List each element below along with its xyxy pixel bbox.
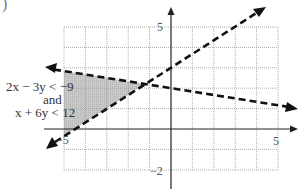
arrowhead-icon <box>285 102 298 112</box>
arrowhead-icon <box>45 63 57 73</box>
y-tick-5: 5 <box>157 21 163 33</box>
y-axis-arrow-icon <box>168 7 175 15</box>
x-tick-neg5: −5 <box>56 134 69 146</box>
inequality-2-label: x + 6y < 12 <box>15 106 75 119</box>
shaded-solution-region <box>64 71 145 136</box>
problem-label: ) <box>2 0 7 12</box>
y-tick-neg2: −2 <box>150 165 163 177</box>
x-tick-5: 5 <box>273 135 279 147</box>
arrowhead-icon <box>253 7 266 17</box>
x-axis-arrow-icon <box>290 126 298 133</box>
inequality-1-label: 2x − 3y < −9 <box>6 80 74 93</box>
